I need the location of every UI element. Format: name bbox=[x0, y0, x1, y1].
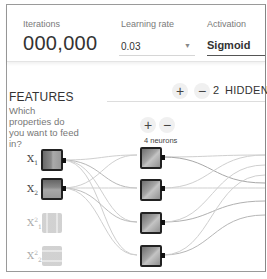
hidden-neuron-2[interactable] bbox=[140, 179, 162, 201]
output-port-n2 bbox=[161, 186, 165, 191]
playground-panel: Iterations 000,000 Learning rate 0.03 ▼ … bbox=[6, 4, 266, 272]
output-port-n4 bbox=[161, 253, 165, 258]
link-x1-n1 bbox=[62, 155, 137, 160]
link-x1-n3 bbox=[62, 160, 137, 222]
input-node-x1[interactable] bbox=[41, 149, 63, 171]
feature-x2-label: X2 bbox=[27, 183, 38, 196]
link-x1-n2 bbox=[62, 160, 137, 188]
hidden-neuron-1[interactable] bbox=[140, 147, 162, 169]
feature-x1-squared-label: X21 bbox=[27, 216, 42, 230]
link-x1-n4 bbox=[62, 160, 137, 255]
output-port-x1 bbox=[62, 158, 66, 163]
output-port-n1 bbox=[161, 155, 165, 160]
link-n2-out2 bbox=[163, 155, 265, 188]
link-x2-n3 bbox=[62, 188, 137, 222]
link-n3-out bbox=[163, 201, 265, 222]
feature-x1-label: X1 bbox=[27, 153, 38, 166]
input-node-x2[interactable] bbox=[41, 178, 63, 200]
feature-x2-squared-label: X22 bbox=[27, 249, 42, 263]
hidden-neuron-4[interactable] bbox=[140, 245, 162, 267]
output-port-n3 bbox=[161, 220, 165, 225]
link-x2-n4 bbox=[62, 188, 137, 255]
input-node-x1-squared[interactable] bbox=[42, 213, 62, 233]
hidden-neuron-3[interactable] bbox=[140, 212, 162, 234]
input-node-x2-squared[interactable] bbox=[42, 246, 62, 266]
output-port-x2 bbox=[62, 186, 66, 191]
